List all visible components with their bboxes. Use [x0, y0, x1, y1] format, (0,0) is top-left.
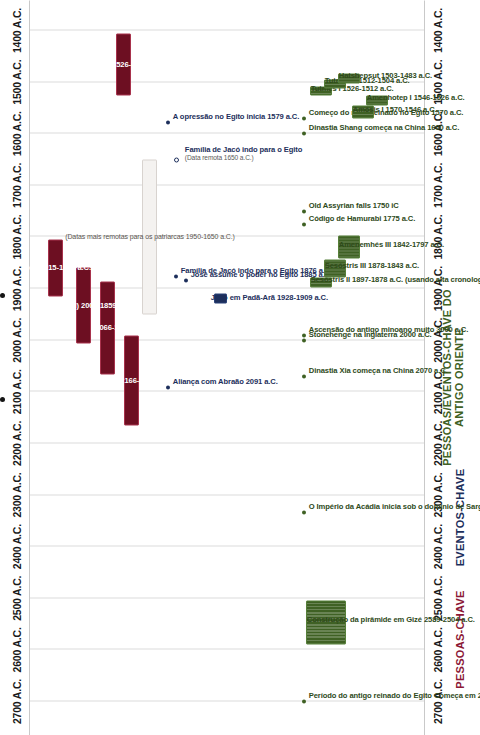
axis-tick-label: 2500 A.C. [432, 575, 444, 620]
timeline-orient-caption: Amenemhés III 1842-1797 a.C. [339, 239, 444, 248]
gridline [30, 545, 424, 546]
axis-tick-label: 2400 A.C. [432, 524, 444, 569]
timeline-infographic: 2700 A.C.2600 A.C.2500 A.C.2400 A.C.2300… [0, 0, 480, 735]
axis-tick-label: 1600 A.C. [432, 111, 444, 156]
timeline-orient-caption: O Império da Acádia inicia sob o domínio… [309, 501, 480, 510]
timeline-bar-label: (Datas mais remotas para os patriarcas 1… [65, 233, 235, 240]
timeline-orient-caption: Amósis I 1570-1546 a.C. [353, 104, 437, 113]
timeline-bar-label: Abraão 2166-1991 a.C. [92, 376, 171, 385]
timeline-bar-people[interactable]: Isaque 2066-1886 a.C. [100, 281, 115, 374]
axis-tick-label: 1600 A.C. [11, 111, 23, 156]
axis-tick-label: 2000 A.C. [11, 317, 23, 362]
axis-tick-label: 1700 A.C. [432, 162, 444, 207]
timeline-orient-caption: Dinastia Xia começa na China 2070 a.C. [309, 365, 448, 374]
timeline-bar-people[interactable]: Abraão 2166-1991 a.C. [124, 335, 139, 425]
event-marker-icon [302, 699, 306, 703]
timeline-bar-label: Moisés 1526-1406 a.C. [84, 60, 162, 69]
event-marker-icon [302, 209, 306, 213]
axis-tick-label: 2100 A.C. [11, 369, 23, 414]
axis-tick-label: 2700 A.C. [432, 678, 444, 723]
timeline-bar-label: José 1915-1805 a.C. [21, 263, 91, 272]
axis-tick-label: 2700 A.C. [11, 678, 23, 723]
timeline-orient-caption: Código de Hamurabi 1775 a.C. [309, 213, 416, 222]
chart-stage: 2700 A.C.2600 A.C.2500 A.C.2400 A.C.2300… [0, 0, 480, 735]
lane-title-pessoas-chave: PESSOAS-CHAVE [454, 590, 466, 688]
timeline-event-caption: Jacó em Padã-Arã 1928-1909 a.C. [211, 292, 328, 301]
axis-tick-label: 2600 A.C. [432, 627, 444, 672]
timeline-orient-caption: Construção da pirâmide em Gizé 2589-2504… [307, 614, 475, 623]
timeline-bar-people[interactable]: Jacó (Israel) 2006-1859 a.C. [76, 267, 91, 343]
event-marker-icon [302, 338, 306, 342]
gridline [30, 494, 424, 495]
axis-tick-label: 1700 A.C. [11, 162, 23, 207]
event-marker-icon [174, 274, 178, 278]
timeline-event-caption: Família de Jacó indo para o Egito 1876 a… [181, 265, 332, 274]
timeline-orient-caption: Amenhotep I 1546-1526 a.C. [367, 92, 465, 101]
timeline-orient-caption: Sesóstris III 1878-1843 a.C. [325, 260, 419, 269]
axis-tick-label: 1800 A.C. [11, 214, 23, 259]
axis-line-top [29, 0, 30, 735]
lane-title-eventos-chave: EVENTOS-CHAVE [454, 468, 466, 566]
gridline [30, 597, 424, 598]
gridline [30, 390, 424, 391]
axis-tick-label: 2200 A.C. [11, 420, 23, 465]
timeline-bar-label: Jacó (Israel) 2006-1859 a.C. [36, 300, 132, 309]
axis-tick-label: 1500 A.C. [11, 59, 23, 104]
axis-tick-label: 2600 A.C. [11, 627, 23, 672]
timeline-orient-caption: Ascensão do antigo minoano muito 3000 a.… [309, 324, 469, 333]
gridline [30, 132, 424, 133]
timeline-orient-caption: Dinastia Shang começa na China 1600 a.C. [309, 122, 459, 131]
event-marker-icon [302, 222, 306, 226]
axis-tick-label: 1900 A.C. [11, 266, 23, 311]
lane-title-antigo-oriente: PESSOAS/EVENTOS-CHAVE DOANTIGO ORIENTE [441, 289, 466, 466]
axis-tick-label: 2500 A.C. [11, 575, 23, 620]
event-marker-icon [302, 116, 306, 120]
axis-tick-label: 1400 A.C. [11, 7, 23, 52]
gridline [30, 442, 424, 443]
timeline-bar-people[interactable]: (Datas mais remotas para os patriarcas 1… [142, 159, 157, 314]
lane-title-line: ANTIGO ORIENTE [453, 289, 466, 466]
edge-marker-upper [0, 293, 5, 298]
timeline-orient-caption: Período do antigo reinado do Egito Começ… [309, 690, 480, 699]
timeline-orient-caption: Hatshepsut 1503-1483 a.C. [339, 70, 432, 79]
event-marker-icon [184, 278, 188, 282]
timeline-bar-people[interactable]: Moisés 1526-1406 a.C. [116, 33, 131, 95]
axis-tick-label: 1800 A.C. [432, 214, 444, 259]
event-marker-icon [166, 385, 170, 389]
axis-tick-label: 1400 A.C. [432, 7, 444, 52]
event-marker-hollow-icon [174, 157, 179, 162]
timeline-event-caption: Família de Jacó indo para o Egito(Data r… [185, 144, 302, 162]
timeline-bar-people[interactable]: José 1915-1805 a.C. [48, 239, 63, 296]
timeline-orient-caption: Old Assyrian falls 1750 iC [309, 200, 399, 209]
timeline-event-subcaption: (Data remota 1650 a.C.) [185, 154, 302, 162]
event-marker-icon [302, 374, 306, 378]
edge-marker-lower [0, 397, 5, 402]
gridline [30, 648, 424, 649]
timeline-event-caption: A opressão no Egito inicia 1579 a.C. [173, 112, 300, 121]
gridline [30, 184, 424, 185]
axis-tick-label: 2300 A.C. [11, 472, 23, 517]
event-marker-icon [302, 131, 306, 135]
event-marker-icon [302, 333, 306, 337]
event-marker-icon [302, 510, 306, 514]
axis-tick-label: 2400 A.C. [11, 524, 23, 569]
gridline [30, 29, 424, 30]
event-marker-icon [166, 120, 170, 124]
timeline-event-caption: Aliança com Abraão 2091 a.C. [173, 376, 278, 385]
lane-title-line: PESSOAS/EVENTOS-CHAVE DO [441, 289, 454, 466]
